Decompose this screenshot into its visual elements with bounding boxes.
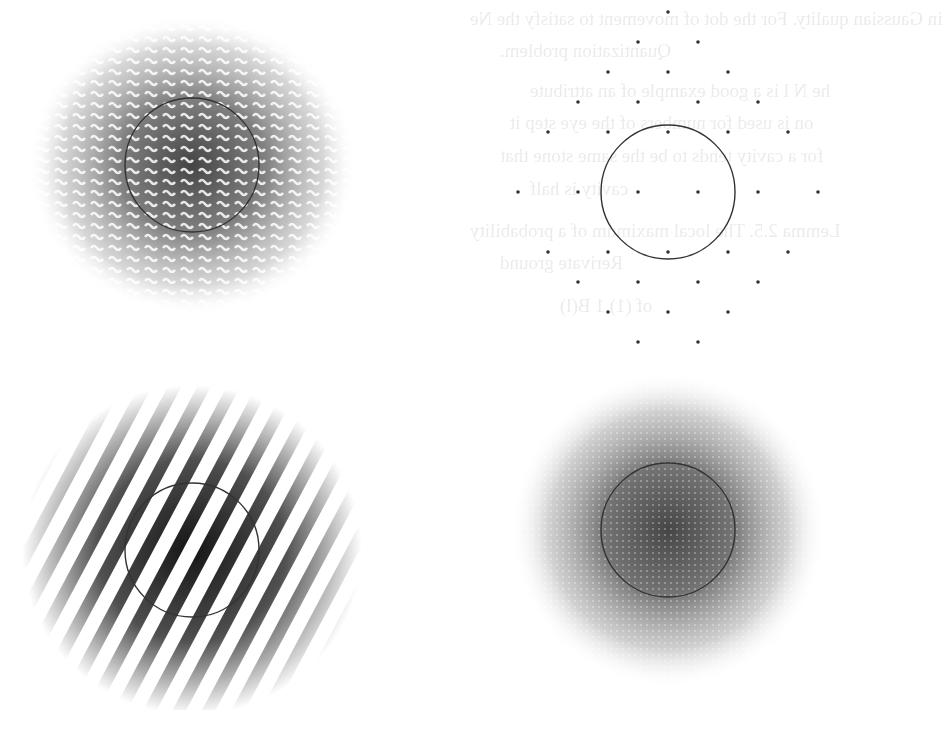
lattice-point xyxy=(576,280,580,284)
panel-top-right-hex-lattice xyxy=(0,0,851,360)
lattice-point xyxy=(696,190,700,194)
lattice-point xyxy=(636,190,640,194)
lattice-point xyxy=(756,190,760,194)
lattice-point xyxy=(696,280,700,284)
lattice-point xyxy=(666,250,670,254)
lattice-point xyxy=(606,250,610,254)
lattice-point xyxy=(546,250,550,254)
speckle-gaussian-figure xyxy=(470,340,850,720)
lattice-point xyxy=(666,130,670,134)
lattice-point xyxy=(786,130,790,134)
lattice-point xyxy=(666,310,670,314)
lattice-point xyxy=(666,10,670,14)
lattice-point xyxy=(816,190,820,194)
lattice-point xyxy=(516,190,520,194)
lattice-point xyxy=(606,130,610,134)
lattice-point xyxy=(756,100,760,104)
panel-bottom-left-fringes xyxy=(0,370,400,710)
lattice-point xyxy=(606,70,610,74)
lattice-point xyxy=(636,40,640,44)
lattice-point xyxy=(576,100,580,104)
lattice-point xyxy=(576,190,580,194)
lattice-point xyxy=(726,130,730,134)
lattice-point xyxy=(726,250,730,254)
lattice-point xyxy=(636,280,640,284)
lattice-point xyxy=(606,310,610,314)
lattice-point xyxy=(756,280,760,284)
lattice-point xyxy=(636,100,640,104)
lattice-point xyxy=(666,70,670,74)
lattice-point xyxy=(786,250,790,254)
panel-bottom-right-speckle xyxy=(470,340,850,720)
reference-circle xyxy=(601,125,735,259)
lattice-point xyxy=(726,70,730,74)
lattice-point xyxy=(696,40,700,44)
lattice-point xyxy=(546,130,550,134)
hex-lattice-figure xyxy=(0,0,851,360)
lattice-point xyxy=(696,100,700,104)
lattice-point xyxy=(726,310,730,314)
fringe-figure xyxy=(0,370,400,710)
